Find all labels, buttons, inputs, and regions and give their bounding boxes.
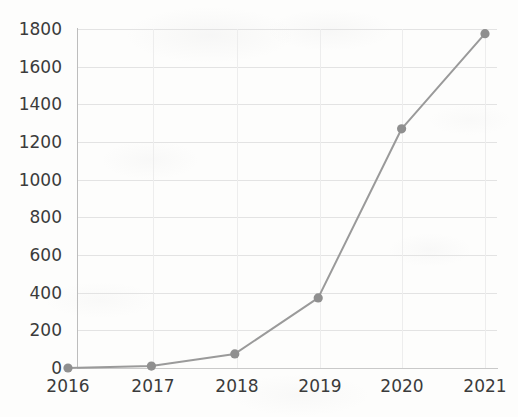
series-markers [63,29,489,373]
data-point-marker [63,363,72,372]
data-point-marker [480,29,489,38]
data-point-marker [397,124,406,133]
data-point-marker [147,362,156,371]
data-point-marker [314,293,323,302]
series-line [68,34,485,368]
data-series-layer [0,0,518,417]
data-point-marker [230,349,239,358]
chart-screenshot: 1800 1600 1400 1200 1000 800 600 400 200… [0,0,518,417]
